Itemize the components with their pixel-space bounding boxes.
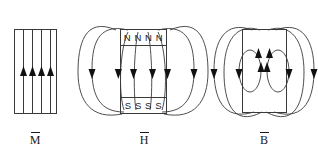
south-pole-label: S S S S <box>125 100 162 111</box>
panel-label-b-text: B <box>260 133 268 147</box>
h-outer-loop <box>92 29 128 112</box>
arrow-down-icon <box>191 69 198 79</box>
m-arrowheads <box>20 66 54 76</box>
arrow-up-icon <box>29 66 36 76</box>
arrow-down-icon <box>236 69 243 79</box>
h-outer-loop <box>158 29 194 112</box>
arrow-up-icon <box>20 66 27 76</box>
h-inner-line <box>121 32 128 110</box>
arrow-down-icon <box>130 69 137 79</box>
magnet-field-figure: N N N N S S S S <box>0 0 318 157</box>
arrow-up-icon <box>38 66 45 76</box>
b-outer-loop <box>266 28 304 116</box>
arrow-down-icon <box>211 69 218 79</box>
h-inner-line <box>158 32 165 110</box>
panel-b-body <box>214 27 314 116</box>
arrow-down-icon <box>311 69 318 79</box>
h-arrowheads <box>89 69 198 79</box>
b-outer-loop <box>214 27 254 114</box>
arrow-up-icon <box>47 66 54 76</box>
arrow-down-icon <box>89 69 96 79</box>
panel-label-b: B <box>256 132 272 146</box>
arrow-up-icon <box>264 62 271 72</box>
arrow-up-icon <box>258 62 265 72</box>
panel-label-m: M <box>27 132 43 146</box>
north-pole-label: N N N N <box>124 32 164 43</box>
b-arrowheads <box>211 48 318 79</box>
panel-label-m-text: M <box>30 133 41 147</box>
panel-label-h: H <box>136 132 152 146</box>
panel-label-h-text: H <box>140 133 149 147</box>
arrow-down-icon <box>149 69 156 79</box>
b-outer-loop <box>274 27 314 114</box>
